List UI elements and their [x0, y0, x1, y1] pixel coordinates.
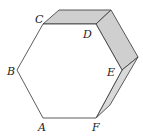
- vertex-label-a: A: [38, 122, 46, 133]
- prism-figure: [0, 0, 143, 136]
- vertex-label-f: F: [92, 122, 100, 133]
- hexagonal-prism-diagram: C D E B A F: [0, 0, 143, 136]
- vertex-label-c: C: [35, 14, 43, 25]
- vertex-label-b: B: [7, 66, 15, 77]
- vertex-label-d: D: [83, 29, 92, 40]
- vertex-label-e: E: [107, 67, 115, 78]
